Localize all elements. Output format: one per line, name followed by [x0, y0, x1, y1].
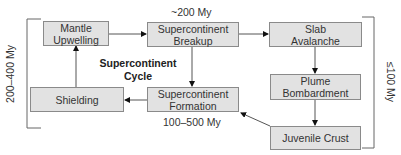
- node-label: Avalanche: [291, 35, 340, 47]
- left-bracket-label: 200–400 My: [4, 44, 16, 104]
- node-juvenile-crust: Juvenile Crust: [270, 126, 361, 150]
- node-label: Slab: [305, 23, 326, 35]
- cycle-title: Supercontinent Cycle: [88, 57, 188, 83]
- cycle-title-line1: Supercontinent: [99, 57, 176, 69]
- node-label: Supercontinent: [158, 23, 229, 35]
- node-supercontinent-formation: SupercontinentFormation: [147, 87, 239, 112]
- node-label: Upwelling: [53, 34, 99, 46]
- node-plume-bombardment: PlumeBombardment: [270, 74, 361, 100]
- node-mantle-upwelling: MantleUpwelling: [43, 21, 109, 46]
- node-shielding: Shielding: [30, 87, 124, 112]
- right-bracket: [362, 17, 374, 148]
- formation-time-label: 100–500 My: [163, 116, 221, 128]
- right-bracket-label: ≤100 My: [385, 52, 397, 112]
- breakup-time-label: ~200 My: [171, 6, 212, 18]
- node-supercontinent-breakup: SupercontinentBreakup: [147, 22, 239, 47]
- node-label: Plume: [301, 75, 331, 87]
- node-label: Mantle: [60, 22, 92, 34]
- node-label: Formation: [169, 100, 216, 112]
- node-label: Juvenile Crust: [282, 132, 349, 144]
- node-slab-avalanche: SlabAvalanche: [269, 22, 362, 47]
- node-label: Shielding: [55, 94, 98, 106]
- node-label: Supercontinent: [158, 88, 229, 100]
- node-label: Bombardment: [283, 87, 349, 99]
- cycle-title-line2: Cycle: [124, 70, 152, 82]
- node-label: Breakup: [173, 35, 212, 47]
